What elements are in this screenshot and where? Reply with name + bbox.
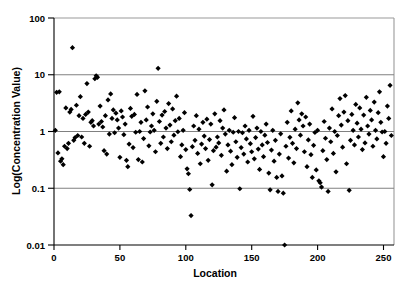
- x-tick-label-50: 50: [115, 252, 126, 263]
- x-tick-label-100: 100: [178, 252, 194, 263]
- x-tick-label-0: 0: [51, 252, 56, 263]
- chart-canvas: 100 10 1 0.1 0.01 0 50 100 150 200 250 L…: [0, 0, 413, 283]
- x-tick-label-150: 150: [244, 252, 260, 263]
- y-tick-label-0.01: 0.01: [27, 240, 46, 251]
- scatter-plot-figure: 100 10 1 0.1 0.01 0 50 100 150 200 250 L…: [0, 0, 413, 283]
- x-axis-title: Location: [193, 267, 237, 279]
- x-tick-label-200: 200: [310, 252, 326, 263]
- x-axis-ticks: 0 50 100 150 200 250: [51, 245, 391, 263]
- y-axis-ticks: 100 10 1 0.1 0.01: [27, 13, 55, 251]
- y-tick-label-1: 1: [40, 126, 46, 137]
- y-tick-label-10: 10: [34, 69, 45, 80]
- y-tick-label-100: 100: [29, 13, 45, 24]
- x-tick-label-250: 250: [376, 252, 392, 263]
- y-axis-title: Log(Concentration Value): [10, 67, 22, 195]
- y-tick-label-0.1: 0.1: [32, 183, 46, 194]
